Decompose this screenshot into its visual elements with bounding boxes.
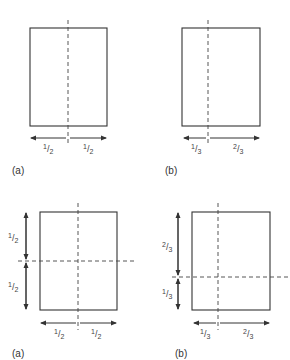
- dim-label-right: 1/2: [91, 328, 101, 340]
- panel-bottom-a: 1/2 1/2 1/2 1/2 (a): [8, 203, 134, 359]
- dim-label-upper: 2/3: [162, 241, 172, 253]
- panel-top-a: 1/2 1/2 (a): [12, 20, 107, 176]
- dim-label-upper: 1/2: [8, 232, 18, 244]
- dim-label-left: 1/2: [43, 143, 53, 155]
- dim-label-right: 1/2: [83, 143, 93, 155]
- rectangle: [192, 212, 270, 310]
- caption: (b): [175, 348, 187, 359]
- rectangle: [30, 28, 107, 126]
- caption: (a): [12, 348, 24, 359]
- caption: (b): [165, 165, 177, 176]
- panel-top-b: 1/3 2/3 (b): [165, 20, 260, 176]
- dim-label-lower: 1/3: [162, 288, 172, 300]
- dim-label-left: 1/3: [191, 143, 201, 155]
- caption: (a): [12, 165, 24, 176]
- panel-bottom-b: 2/3 1/3 1/3 2/3 (b): [162, 203, 288, 359]
- dim-label-left: 1/2: [54, 328, 64, 340]
- dim-label-left: 1/3: [200, 328, 210, 340]
- rectangle: [182, 28, 260, 126]
- dim-label-lower: 1/2: [8, 281, 18, 293]
- dim-label-right: 2/3: [233, 143, 243, 155]
- diagram-canvas: 1/2 1/2 (a) 1/3 2/3 (b) 1/2 1/2 1/2 1/2 …: [0, 0, 290, 360]
- dim-label-right: 2/3: [243, 328, 253, 340]
